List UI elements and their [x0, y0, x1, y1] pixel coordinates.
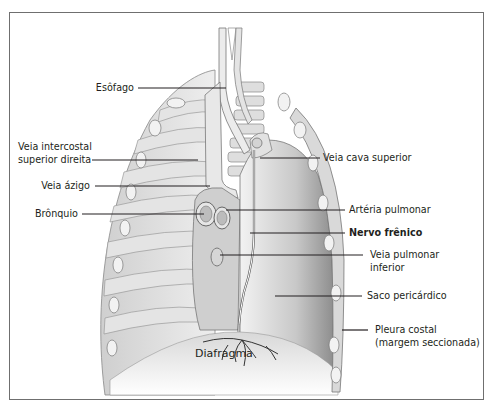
lung-root [192, 188, 240, 330]
label-bronquio: Brônquio [20, 208, 78, 220]
label-arteria-pulmonar: Artéria pulmonar [349, 204, 431, 216]
label-esofago: Esôfago [80, 82, 134, 94]
label-veia-cava-superior: Veia cava superior [323, 152, 412, 164]
label-nervo-frenico: Nervo frênico [349, 227, 422, 239]
label-pleura-costal-line2: (margem seccionada) [375, 337, 480, 349]
label-diafragma: Diafragma [195, 348, 253, 360]
label-saco-pericardico: Saco pericárdico [367, 290, 447, 302]
label-veia-pulmonar-inferior-line1: Veia pulmonar [370, 249, 439, 261]
label-veia-intercostal-line2: superior direita [18, 154, 91, 166]
label-veia-azigo: Veia ázigo [30, 180, 90, 192]
label-veia-pulmonar-inferior-line2: inferior [370, 262, 404, 274]
label-pleura-costal-line1: Pleura costal [375, 324, 437, 336]
label-veia-intercostal-line1: Veia intercostal [18, 141, 92, 153]
